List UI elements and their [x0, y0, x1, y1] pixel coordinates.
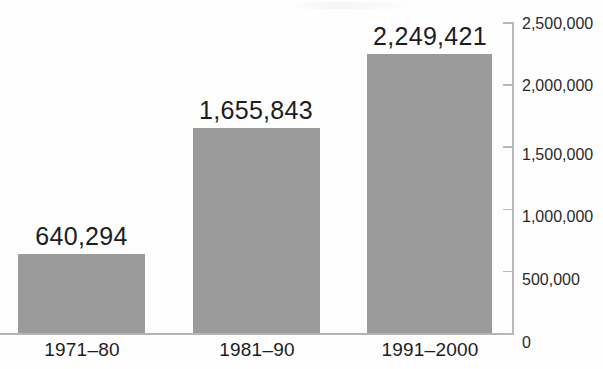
y-tick-label-2000000: 2,000,000	[522, 77, 593, 95]
bar-1991-2000	[367, 54, 492, 334]
bar-value-label-1971-80: 640,294	[18, 222, 145, 251]
y-tick-mark-2500000	[503, 22, 514, 24]
y-tick-mark-500000	[503, 271, 514, 273]
x-axis-label-1991-2000: 1991–2000	[359, 339, 501, 361]
y-tick-mark-1500000	[503, 146, 514, 148]
y-tick-label-1500000: 1,500,000	[522, 146, 593, 164]
x-axis-label-1971-80: 1971–80	[12, 339, 152, 361]
x-axis-baseline	[0, 333, 513, 335]
bar-value-label-1981-90: 1,655,843	[180, 96, 332, 125]
y-tick-label-0: 0	[522, 334, 531, 352]
y-tick-mark-1000000	[503, 209, 514, 211]
bar-1981-90	[193, 128, 320, 334]
bar-chart: 640,294 1,655,843 2,249,421 2,500,000 2,…	[0, 0, 603, 369]
y-tick-label-500000: 500,000	[522, 271, 580, 289]
y-tick-label-1000000: 1,000,000	[522, 208, 593, 226]
bar-1971-80	[18, 254, 145, 334]
x-axis-label-1981-90: 1981–90	[187, 339, 327, 361]
y-axis-line	[512, 22, 514, 334]
y-tick-label-2500000: 2,500,000	[522, 15, 593, 33]
y-tick-mark-2000000	[503, 84, 514, 86]
y-tick-mark-0	[503, 333, 514, 335]
bar-value-label-1991-2000: 2,249,421	[355, 22, 505, 51]
